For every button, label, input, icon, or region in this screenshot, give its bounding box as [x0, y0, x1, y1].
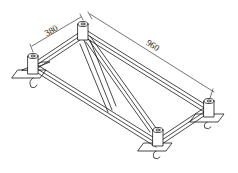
frame-diagram: 380 960: [0, 0, 238, 173]
post-front-left: [28, 54, 38, 75]
post-front-right: [153, 128, 163, 147]
post-back-right: [204, 99, 214, 118]
frame-drawing: 380 960: [0, 0, 238, 173]
corner-posts: [28, 22, 214, 147]
length-dimension-label: 960: [144, 37, 161, 53]
post-back-left: [78, 22, 88, 41]
width-dimension-label: 380: [43, 23, 60, 39]
long-rails: [36, 30, 206, 147]
